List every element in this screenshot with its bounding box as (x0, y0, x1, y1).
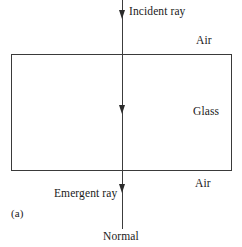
emergent-ray-label: Emergent ray (54, 187, 117, 200)
emergent-ray-arrowhead-icon (119, 184, 125, 193)
incident-ray-label: Incident ray (129, 5, 185, 18)
incident-ray-arrowhead-icon (119, 10, 125, 19)
refracted-ray-arrowhead-icon (119, 105, 125, 114)
panel-label: (a) (11, 207, 24, 220)
air-label-top: Air (196, 34, 212, 47)
optics-refraction-figure: Incident ray Air Glass Air Emergent ray … (0, 0, 242, 247)
glass-label: Glass (193, 105, 219, 118)
normal-ray-line (122, 0, 123, 229)
normal-label: Normal (103, 230, 139, 243)
air-label-bottom: Air (195, 177, 211, 190)
